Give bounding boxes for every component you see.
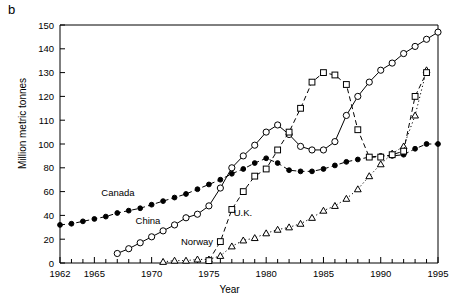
data-point [171,222,177,228]
data-point [332,202,339,208]
data-point [378,67,384,73]
data-point [263,166,269,172]
series-label-uk: U.K. [234,207,252,218]
data-point [252,161,257,166]
y-tick: 80 [43,162,65,173]
svg-text:0: 0 [49,258,54,269]
data-point [160,258,167,264]
svg-text:100: 100 [38,139,54,150]
svg-text:1965: 1965 [84,268,105,279]
series-label-norway: Norway [181,236,213,247]
svg-text:150: 150 [38,20,54,31]
data-point [126,208,131,213]
data-point [115,211,120,216]
data-point [229,171,234,176]
data-point [275,161,280,166]
svg-text:1962: 1962 [49,268,70,279]
y-tick: 110 [39,115,65,126]
data-point [320,207,327,213]
data-point [377,161,384,167]
y-tick: 140 [38,43,65,54]
data-point [218,177,223,182]
svg-text:1975: 1975 [198,268,219,279]
data-point [297,143,303,149]
data-point [343,195,350,201]
data-point [161,199,166,204]
data-point [354,186,361,192]
data-point [355,93,361,99]
data-point [149,202,154,207]
data-point [401,50,407,56]
data-point [344,159,349,164]
data-point [103,214,108,219]
svg-text:1970: 1970 [141,268,162,279]
data-point [228,243,235,249]
y-tick: 150 [38,20,65,31]
svg-text:40: 40 [43,210,54,221]
y-tick: 60 [43,186,65,197]
y-tick: 0 [49,258,65,269]
data-point [240,153,246,159]
data-point [309,147,315,153]
data-point [298,105,304,111]
series-label-china: China [136,215,162,226]
data-point [207,182,212,187]
data-point [423,36,429,42]
svg-text:110: 110 [39,115,54,126]
data-point [378,154,384,160]
data-point [424,70,430,76]
y-tick: 100 [38,139,65,150]
data-point [160,228,166,234]
svg-text:1980: 1980 [256,268,277,279]
data-point [310,169,315,174]
data-point [217,185,223,191]
data-point [206,258,212,264]
svg-text:80: 80 [43,162,54,173]
data-point [287,168,292,173]
data-point [275,147,281,153]
data-point [194,211,200,217]
data-point [297,220,304,226]
data-point [366,79,372,85]
data-point [252,173,258,179]
data-point [412,94,418,100]
data-point [298,169,303,174]
data-point [137,240,143,246]
data-point [366,173,373,179]
series-uk [206,70,429,264]
svg-text:1985: 1985 [313,268,334,279]
series-norway [160,67,430,265]
data-point [412,112,419,118]
data-point [413,146,418,151]
data-point [436,142,441,147]
data-point [389,152,395,158]
data-point [172,195,177,200]
data-point [286,224,293,230]
data-point [241,167,246,172]
data-point [355,157,360,162]
series-label-canada: Canada [101,187,135,198]
data-point [309,79,315,85]
data-point [275,122,281,128]
data-point [240,189,246,195]
data-point [332,139,338,145]
svg-text:120: 120 [38,91,54,102]
data-point [206,203,212,209]
data-point [69,221,74,226]
plot-canvas: 0204060801001101201301401501962196519701… [0,0,459,304]
data-point [171,257,178,263]
data-point [183,215,189,221]
data-point [58,223,63,228]
data-point [114,250,120,256]
y-tick: 120 [38,91,65,102]
data-point [332,72,338,78]
data-point [355,127,361,133]
data-point [424,142,429,147]
data-point [333,163,338,168]
data-point [81,219,86,224]
chart-figure: b Million metric tonnes Year 02040608010… [0,0,459,304]
data-point [435,29,441,35]
data-point [263,230,270,236]
data-point [194,256,201,262]
data-point [412,43,418,49]
